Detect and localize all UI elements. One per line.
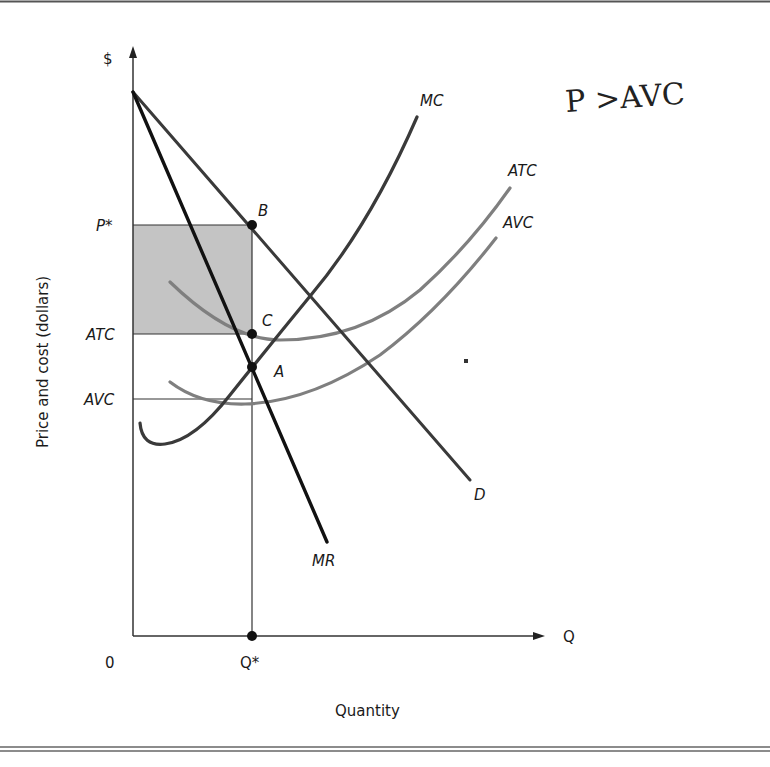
stray-dot bbox=[464, 359, 468, 363]
avc-label: AVC bbox=[502, 214, 534, 232]
x-axis-arrow-icon bbox=[533, 632, 545, 640]
dollar-label: $ bbox=[103, 50, 113, 68]
p-star-label: P* bbox=[96, 217, 113, 235]
point-b bbox=[247, 220, 257, 230]
d-label: D bbox=[474, 486, 486, 504]
b-label: B bbox=[258, 202, 268, 220]
mc-label: MC bbox=[420, 92, 444, 110]
avc-tick-label: AVC bbox=[83, 391, 115, 409]
origin-label: 0 bbox=[105, 654, 115, 672]
a-label: A bbox=[273, 363, 284, 381]
y-axis-arrow-icon bbox=[129, 46, 137, 58]
q-star-label: Q* bbox=[240, 654, 260, 672]
point-c bbox=[247, 329, 257, 339]
c-label: C bbox=[262, 312, 273, 330]
mr-label: MR bbox=[312, 552, 335, 570]
profit-area bbox=[133, 225, 252, 334]
point-a bbox=[247, 362, 257, 372]
q-axis-label: Q bbox=[563, 628, 575, 646]
atc-tick-label: ATC bbox=[85, 326, 115, 344]
point-q-star bbox=[247, 631, 257, 641]
x-axis-title: Quantity bbox=[335, 702, 400, 720]
atc-label: ATC bbox=[507, 162, 537, 180]
handwritten-annotation: P >AVC bbox=[564, 76, 686, 119]
chart-canvas: $ P* ATC AVC 0 Q* Q Quantity Price and c… bbox=[0, 0, 770, 767]
y-axis-title: Price and cost (dollars) bbox=[34, 276, 52, 448]
